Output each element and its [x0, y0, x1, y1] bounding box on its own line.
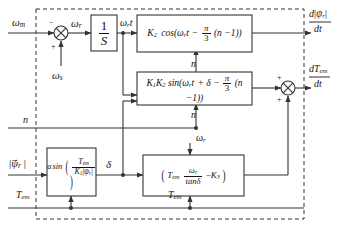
signal-label-n-top: n	[191, 59, 196, 69]
torque-derivative-denominator: dt	[314, 79, 322, 89]
input-label-omega-m: ωm	[12, 17, 25, 29]
signal-label-omega-r-top: ωr	[196, 133, 206, 144]
signal-label-omega-r: ωr	[71, 18, 82, 30]
sum-sign-minus: −	[49, 19, 54, 27]
flux-derivative-denominator: dt	[314, 24, 322, 34]
input-label-t-em: Tem	[16, 190, 30, 201]
sum-sign-plus: +	[51, 43, 56, 51]
input-label-psi-r: |ψ→r |	[9, 158, 26, 170]
input-label-n: n	[23, 115, 28, 125]
sum2-sign-plus-bottom: +	[277, 96, 282, 104]
flux-derivative-output: d|ψ→r|	[309, 9, 327, 20]
block-diagram: ωm ωs − + ωr 1 S ωrt K2 cos(ωrt − π 3 (n…	[0, 0, 337, 234]
sum2-sign-plus-top: +	[277, 74, 282, 82]
signal-label-t-em-bus: Tem	[168, 190, 182, 201]
input-label-omega-s: ωs	[52, 70, 63, 82]
signal-label-omega-r-t: ωrt	[120, 18, 133, 29]
torque-derivative-output: dTem	[309, 64, 328, 75]
signal-label-n-bottom: n	[191, 110, 196, 120]
block-outlines	[47, 15, 252, 196]
signal-label-delta: δ	[106, 159, 111, 170]
